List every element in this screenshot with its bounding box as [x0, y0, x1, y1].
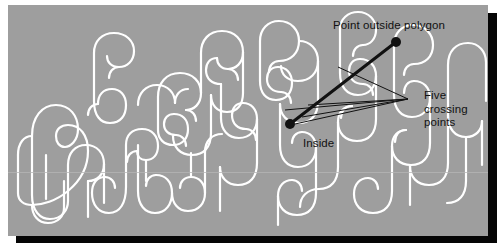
scanline-artifact: [8, 172, 488, 173]
label-point-outside-polygon: Point outside polygon: [333, 19, 445, 33]
label-five-crossing-points: Five crossing points: [424, 89, 468, 130]
figure-root: Point outside polygon Inside Five crossi…: [0, 0, 500, 251]
label-inside: Inside: [303, 137, 334, 151]
outside-point-marker: [391, 37, 401, 47]
illustration-plate: Point outside polygon Inside Five crossi…: [8, 5, 488, 236]
inside-point-marker: [285, 119, 295, 129]
annotation-overlay: [8, 5, 488, 236]
test-ray: [290, 42, 396, 124]
